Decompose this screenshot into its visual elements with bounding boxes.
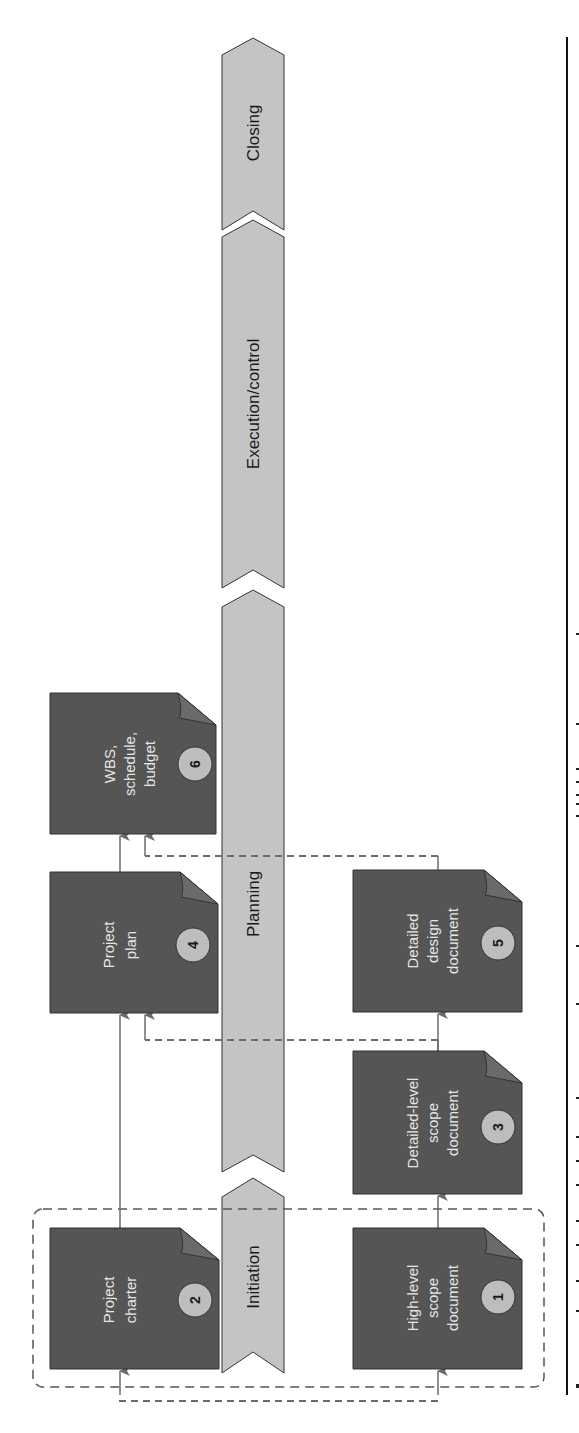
svg-text:High-level: High-level (404, 1265, 421, 1332)
svg-text:4: 4 (185, 941, 201, 949)
svg-text:3: 3 (490, 1123, 506, 1131)
svg-text:document: document (444, 1264, 461, 1331)
svg-text:charter: charter (122, 1277, 139, 1324)
svg-text:6: 6 (187, 760, 203, 768)
svg-text:scope: scope (424, 1278, 441, 1318)
svg-text:schedule,: schedule, (121, 732, 138, 796)
phase-bar: Closing Execution/control Planning Initi… (222, 38, 284, 1373)
phase-execution-label: Execution/control (244, 339, 263, 469)
project-documents-diagram: Closing Execution/control Planning Initi… (0, 0, 579, 1433)
svg-text:Detailed-level: Detailed-level (404, 1078, 421, 1169)
document-4: 4 Project plan (50, 872, 218, 1013)
svg-text:document: document (444, 907, 461, 974)
svg-text:plan: plan (122, 931, 139, 959)
phase-planning-label: Planning (244, 871, 263, 937)
svg-text:Project: Project (100, 1276, 117, 1324)
svg-text:Detailed: Detailed (404, 913, 421, 968)
svg-text:2: 2 (187, 1296, 203, 1304)
svg-text:WBS,: WBS, (101, 745, 118, 783)
dashed-1-to-2 (120, 1395, 438, 1401)
svg-text:Project: Project (100, 921, 117, 969)
document-6: 6 WBS, schedule, budget (50, 693, 216, 834)
document-5: 5 Detailed design document (353, 870, 522, 1012)
svg-text:scope: scope (424, 1103, 441, 1143)
svg-text:document: document (444, 1089, 461, 1156)
phase-initiation-label: Initiation (244, 1245, 263, 1308)
svg-text:budget: budget (141, 740, 158, 787)
phase-closing-label: Closing (244, 105, 263, 162)
document-3: 3 Detailed-level scope document (353, 1051, 522, 1194)
document-1: 1 High-level scope document (353, 1228, 522, 1369)
document-2: 2 Project charter (50, 1228, 219, 1369)
svg-text:design: design (424, 919, 441, 963)
svg-text:5: 5 (490, 939, 506, 947)
svg-text:1: 1 (490, 1293, 506, 1301)
